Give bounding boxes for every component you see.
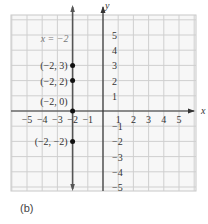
line-equation-label: x = −2 (40, 33, 69, 44)
y-axis-label: y (104, 0, 110, 11)
y-tick-label: −2 (112, 136, 123, 147)
x-tick-label: −3 (52, 114, 63, 125)
data-point (70, 139, 75, 144)
point-label: (−2, −2) (35, 136, 68, 148)
y-tick-label: 2 (112, 76, 117, 87)
x-tick-label: −1 (82, 114, 93, 125)
x-tick-label: 2 (131, 114, 136, 125)
y-tick-label: −5 (112, 182, 123, 193)
y-tick-label: 1 (112, 91, 117, 102)
point-label: (−2, 3) (40, 60, 67, 72)
coordinate-plane: xy−5−4−3−2−112345−5−4−3−2−112345x = −2(−… (0, 0, 208, 224)
x-tick-label: 4 (161, 114, 166, 125)
y-tick-label: −1 (112, 121, 123, 132)
data-point (70, 109, 75, 114)
x-axis-label: x (200, 105, 206, 116)
point-label: (−2, 2) (40, 76, 67, 88)
x-tick-label: 5 (177, 114, 182, 125)
data-point (70, 63, 75, 68)
x-tick-label: −5 (22, 114, 33, 125)
point-label: (−2, 0) (40, 96, 67, 108)
x-tick-label: −4 (37, 114, 48, 125)
data-point (70, 78, 75, 83)
y-tick-label: −4 (112, 167, 123, 178)
y-tick-label: 5 (112, 30, 117, 41)
y-tick-label: 4 (112, 45, 117, 56)
figure-caption: (b) (20, 202, 33, 214)
y-tick-label: 3 (112, 60, 117, 71)
line-arrow-up-icon (70, 5, 75, 12)
x-tick-label: 3 (146, 114, 151, 125)
y-tick-label: −3 (112, 152, 123, 163)
